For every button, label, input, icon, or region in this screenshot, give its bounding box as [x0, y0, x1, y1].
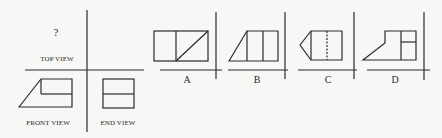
- orthographic-projection-question: ? TOP VIEW FRONT VIEW END VIEW A: [0, 0, 442, 138]
- option-a[interactable]: A: [154, 12, 222, 85]
- diagram-canvas: ? TOP VIEW FRONT VIEW END VIEW A: [0, 0, 442, 138]
- option-d[interactable]: D: [363, 12, 430, 85]
- end-view-label: END VIEW: [100, 119, 135, 127]
- option-b-label: B: [254, 74, 261, 85]
- option-c[interactable]: C: [298, 12, 357, 85]
- front-view-label: FRONT VIEW: [26, 119, 70, 127]
- option-d-label: D: [391, 74, 398, 85]
- option-c-label: C: [325, 74, 332, 85]
- end-view-drawing: [103, 79, 134, 108]
- front-view-drawing: [19, 79, 72, 107]
- option-b[interactable]: B: [228, 12, 288, 85]
- unknown-mark: ?: [54, 26, 59, 38]
- question-axes: [25, 10, 144, 132]
- option-a-label: A: [183, 74, 191, 85]
- top-view-label: TOP VIEW: [40, 55, 74, 63]
